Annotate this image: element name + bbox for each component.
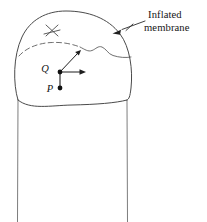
- point-p-label: P: [46, 83, 54, 94]
- callout-text-line2: membrane: [144, 22, 190, 35]
- cross-mark-icon: [44, 25, 60, 36]
- diagonal-vector-shaft: [60, 54, 78, 73]
- inner-dashed-contour: [19, 42, 80, 56]
- tube-left-wall: [18, 100, 19, 222]
- tube-right-wall: [127, 100, 128, 222]
- figure-container: Q P Inflated membrane: [0, 0, 207, 222]
- callout-text-line1: Inflated: [148, 9, 182, 22]
- point-p-dot: [58, 86, 63, 91]
- inner-solid-contour: [80, 47, 131, 58]
- membrane-base-curve: [18, 100, 127, 106]
- point-q-dot: [58, 70, 63, 75]
- callout-leader-line: [122, 21, 145, 30]
- point-q-label: Q: [41, 63, 49, 74]
- horizontal-vector-arrowhead: [80, 69, 87, 74]
